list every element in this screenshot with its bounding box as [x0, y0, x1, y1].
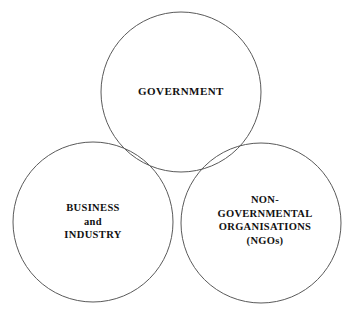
- label-ngo-line-2: GOVERNMENTAL: [185, 207, 345, 221]
- label-government-line-1: GOVERNMENT: [101, 84, 261, 98]
- label-business-line-1: BUSINESS: [13, 201, 173, 215]
- label-business-line-2: and: [13, 215, 173, 229]
- label-ngo: NON- GOVERNMENTAL ORGANISATIONS (NGOs): [185, 193, 345, 248]
- label-government: GOVERNMENT: [101, 84, 261, 98]
- label-business-line-3: INDUSTRY: [13, 228, 173, 242]
- venn-diagram: GOVERNMENT BUSINESS and INDUSTRY NON- GO…: [0, 0, 354, 321]
- venn-circles-canvas: [0, 0, 354, 321]
- label-ngo-line-3: ORGANISATIONS: [185, 220, 345, 234]
- label-ngo-line-1: NON-: [185, 193, 345, 207]
- label-business-industry: BUSINESS and INDUSTRY: [13, 201, 173, 242]
- label-ngo-line-4: (NGOs): [185, 234, 345, 248]
